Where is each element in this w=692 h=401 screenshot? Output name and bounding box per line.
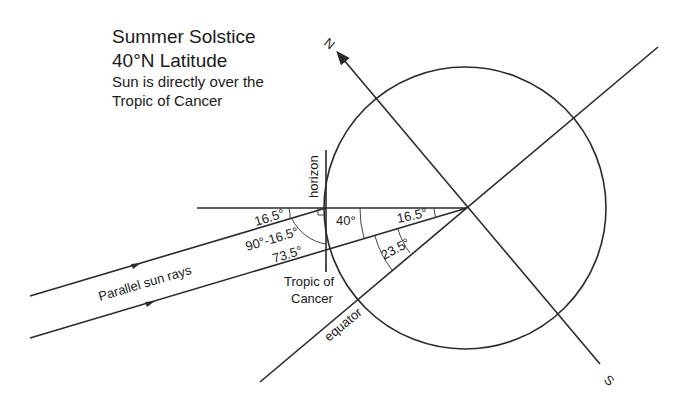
solstice-diagram: Summer Solstice 40°N Latitude Sun is dir… [0,0,692,401]
ray-arrow-lower-icon [145,301,155,307]
title-line-2: 40°N Latitude [112,50,227,71]
ray-arrow-upper-icon [131,263,141,269]
south-label: S [601,372,618,389]
horizon-label: horizon [306,155,321,198]
angle-40: 40° [336,213,356,228]
sun-ray-lower [30,208,467,338]
title-line-4: Tropic of Cancer [112,92,222,109]
north-label: N [321,35,338,53]
arc-16-5-center [434,208,436,218]
tropic-label-line1: Tropic of [284,274,334,289]
arc-40 [360,208,364,238]
tropic-label-line2: Cancer [291,291,334,306]
title-line-1: Summer Solstice [112,26,256,47]
sun-rays-label: Parallel sun rays [97,262,194,304]
angle-73-5: 73.5° [271,243,305,266]
arc-16-5-left [289,208,290,219]
title-line-3: Sun is directly over the [112,73,264,90]
